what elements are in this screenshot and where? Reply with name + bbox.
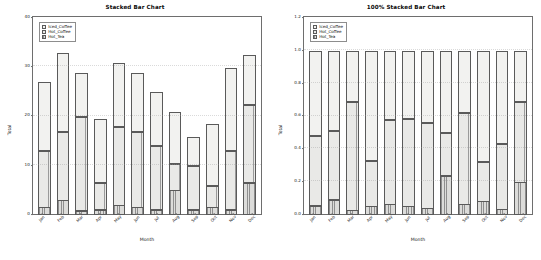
- bar-segment-iced_coffee[interactable]: [131, 73, 144, 132]
- bar-segment-hot_tea[interactable]: [57, 200, 70, 215]
- bar-aug[interactable]: [440, 17, 453, 214]
- legend-label: Hot_Tea: [319, 35, 335, 39]
- bar-segment-hot_tea[interactable]: [514, 182, 527, 215]
- legend-swatch-hot-tea-icon: [313, 35, 317, 39]
- x-axis-tick-label: Jan: [38, 217, 44, 221]
- bar-nov[interactable]: [496, 17, 509, 214]
- bar-segment-hot_tea[interactable]: [38, 207, 51, 214]
- bar-segment-hot_coffee[interactable]: [206, 186, 219, 208]
- bar-jun[interactable]: [131, 17, 144, 214]
- bar-segment-iced_coffee[interactable]: [496, 51, 509, 144]
- bar-apr[interactable]: [365, 17, 378, 214]
- bar-segment-hot_coffee[interactable]: [243, 105, 256, 184]
- bar-segment-hot_coffee[interactable]: [328, 131, 341, 201]
- gridline: [304, 147, 532, 148]
- bar-segment-iced_coffee[interactable]: [384, 51, 397, 120]
- bar-segment-hot_tea[interactable]: [206, 207, 219, 214]
- bar-segment-hot_tea[interactable]: [477, 201, 490, 214]
- bar-may[interactable]: [113, 17, 126, 214]
- bar-mar[interactable]: [346, 17, 359, 214]
- x-axis-ticks-left: JanFebMarAprMayJunJulAugSepOctNovDec: [32, 215, 262, 227]
- bar-sep[interactable]: [187, 17, 200, 214]
- bar-dec[interactable]: [514, 17, 527, 214]
- bar-segment-hot_coffee[interactable]: [131, 132, 144, 208]
- x-axis-tick-label: Apr: [367, 217, 374, 221]
- bar-segment-iced_coffee[interactable]: [94, 119, 107, 183]
- bar-segment-hot_coffee[interactable]: [440, 133, 453, 176]
- bar-segment-hot_tea[interactable]: [496, 209, 509, 214]
- bar-segment-hot_coffee[interactable]: [346, 102, 359, 211]
- bar-segment-iced_coffee[interactable]: [365, 51, 378, 160]
- bar-oct[interactable]: [477, 17, 490, 214]
- bar-segment-hot_coffee[interactable]: [384, 120, 397, 205]
- bar-segment-iced_coffee[interactable]: [38, 82, 51, 151]
- bar-segment-iced_coffee[interactable]: [477, 51, 490, 162]
- bar-segment-hot_coffee[interactable]: [150, 146, 163, 210]
- y-axis-label-left: Total: [7, 125, 12, 136]
- bar-jan[interactable]: [309, 17, 322, 214]
- bar-segment-iced_coffee[interactable]: [169, 112, 182, 164]
- bar-segment-hot_coffee[interactable]: [94, 183, 107, 210]
- bar-aug[interactable]: [169, 17, 182, 214]
- bar-segment-hot_coffee[interactable]: [496, 144, 509, 210]
- bar-oct[interactable]: [206, 17, 219, 214]
- bar-segment-iced_coffee[interactable]: [514, 51, 527, 102]
- bar-jun[interactable]: [402, 17, 415, 214]
- bar-segment-iced_coffee[interactable]: [75, 73, 88, 117]
- bar-segment-iced_coffee[interactable]: [402, 51, 415, 119]
- bar-jul[interactable]: [150, 17, 163, 214]
- bar-segment-hot_coffee[interactable]: [402, 119, 415, 207]
- legend-swatch-hot-coffee-icon: [313, 30, 317, 34]
- bar-segment-iced_coffee[interactable]: [206, 124, 219, 186]
- bar-jan[interactable]: [38, 17, 51, 214]
- bar-segment-hot_coffee[interactable]: [421, 123, 434, 208]
- chart-title-left: Stacked Bar Chart: [0, 4, 270, 10]
- x-axis-tick-label: Mar: [76, 217, 84, 221]
- y-axis-tick: 1.2: [294, 15, 304, 19]
- bar-feb[interactable]: [328, 17, 341, 214]
- bar-segment-iced_coffee[interactable]: [440, 51, 453, 133]
- bar-nov[interactable]: [225, 17, 238, 214]
- x-axis-ticks-right: JanFebMarAprMayJunJulAugSepOctNovDec: [303, 215, 533, 227]
- bar-segment-iced_coffee[interactable]: [346, 51, 359, 102]
- bar-segment-hot_coffee[interactable]: [365, 161, 378, 207]
- bar-segment-iced_coffee[interactable]: [225, 68, 238, 152]
- bar-apr[interactable]: [94, 17, 107, 214]
- x-axis-tick-label: May: [114, 217, 122, 221]
- y-axis-tick: 1.0: [294, 48, 304, 52]
- bar-segment-hot_coffee[interactable]: [225, 151, 238, 210]
- bar-segment-iced_coffee[interactable]: [421, 51, 434, 123]
- y-axis-tick: 0.6: [294, 113, 304, 117]
- bar-segment-hot_tea[interactable]: [169, 190, 182, 215]
- bar-segment-hot_tea[interactable]: [440, 176, 453, 215]
- bar-may[interactable]: [384, 17, 397, 214]
- bar-segment-hot_tea[interactable]: [225, 210, 238, 215]
- bar-segment-iced_coffee[interactable]: [187, 137, 200, 167]
- bar-segment-hot_coffee[interactable]: [458, 113, 471, 205]
- bar-segment-hot_coffee[interactable]: [57, 132, 70, 201]
- bar-segment-hot_coffee[interactable]: [477, 162, 490, 202]
- bar-segment-iced_coffee[interactable]: [243, 55, 256, 104]
- bar-segment-hot_coffee[interactable]: [113, 127, 126, 206]
- bar-mar[interactable]: [75, 17, 88, 214]
- bar-jul[interactable]: [421, 17, 434, 214]
- legend-left: Iced_CoffeeHot_CoffeeHot_Tea: [39, 22, 76, 42]
- bar-segment-hot_tea[interactable]: [328, 200, 341, 215]
- bar-segment-hot_coffee[interactable]: [169, 164, 182, 191]
- plot-frame-right: Iced_CoffeeHot_CoffeeHot_Tea 0.00.20.40.…: [303, 16, 533, 215]
- bar-segment-hot_tea[interactable]: [94, 210, 107, 215]
- bar-segment-hot_tea[interactable]: [243, 183, 256, 215]
- bar-dec[interactable]: [243, 17, 256, 214]
- x-axis-tick-label: Jun: [405, 217, 411, 221]
- bar-segment-iced_coffee[interactable]: [309, 51, 322, 136]
- bar-segment-hot_coffee[interactable]: [38, 151, 51, 208]
- bar-segment-hot_tea[interactable]: [384, 204, 397, 215]
- bar-segment-hot_coffee[interactable]: [187, 166, 200, 210]
- bar-segment-iced_coffee[interactable]: [328, 51, 341, 131]
- bar-segment-iced_coffee[interactable]: [113, 63, 126, 127]
- bar-feb[interactable]: [57, 17, 70, 214]
- bar-segment-iced_coffee[interactable]: [150, 92, 163, 146]
- bar-segment-hot_tea[interactable]: [309, 206, 322, 215]
- bar-sep[interactable]: [458, 17, 471, 214]
- bar-segment-hot_tea[interactable]: [365, 206, 378, 214]
